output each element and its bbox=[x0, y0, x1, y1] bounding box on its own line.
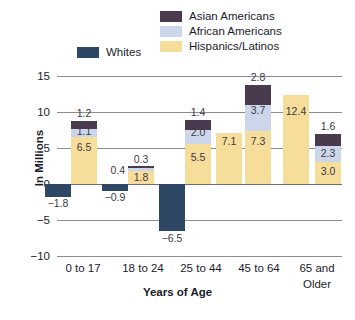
legend-item-hispanics-latinos: Hispanics/Latinos bbox=[160, 39, 282, 53]
value-label-hispanic-5a: 12.4 bbox=[278, 106, 314, 117]
value-label-hispanic-2: 1.8 bbox=[123, 172, 159, 183]
value-label-african-2: 0.4 bbox=[95, 165, 125, 176]
legend-item-asian-americans: Asian Americans bbox=[160, 9, 282, 23]
value-label-whites-3: −6.5 bbox=[154, 233, 190, 244]
x-tick-45-to-64: 45 to 64 bbox=[226, 262, 292, 274]
legend-item-whites: Whites bbox=[77, 45, 141, 59]
legend-swatch-asian-americans-icon bbox=[160, 11, 182, 22]
gridline-15 bbox=[57, 76, 342, 77]
legend-item-african-americans: African Americans bbox=[160, 24, 282, 38]
y-tick-neg10: −10 bbox=[20, 250, 50, 262]
bar-0-to-17-whites bbox=[45, 184, 71, 197]
legend-label-hispanics-latinos: Hispanics/Latinos bbox=[189, 40, 279, 52]
bar-25-to-44-whites bbox=[159, 184, 185, 231]
gridline-zero bbox=[57, 184, 342, 185]
legend-label-whites: Whites bbox=[106, 46, 141, 58]
value-label-hispanic-4b: 7.3 bbox=[240, 136, 276, 147]
legend-label-asian-americans: Asian Americans bbox=[189, 10, 275, 22]
x-axis-title: Years of Age bbox=[0, 286, 355, 298]
value-label-asian-4b: 2.8 bbox=[240, 72, 276, 83]
value-label-hispanic-5b: 3.0 bbox=[310, 166, 346, 177]
legend-swatch-african-americans-icon bbox=[160, 26, 182, 37]
plot-area: 1.2 1.1 6.5 −1.8 0.3 0.4 1.8 −0.9 1.4 2.… bbox=[57, 76, 342, 256]
value-label-whites-1: −1.8 bbox=[40, 198, 76, 209]
y-tick-neg5: −5 bbox=[20, 214, 50, 226]
value-label-african-1: 1.1 bbox=[66, 126, 102, 137]
value-label-african-5b: 2.3 bbox=[310, 148, 346, 159]
value-label-hispanic-1: 6.5 bbox=[66, 142, 102, 153]
legend-whites: Whites bbox=[77, 45, 141, 60]
segment-asian-americans bbox=[245, 85, 271, 105]
value-label-asian-5b: 1.6 bbox=[310, 121, 346, 132]
legend-swatch-hispanics-latinos-icon bbox=[160, 41, 182, 52]
bar-18-to-24-whites bbox=[102, 184, 128, 191]
segment-asian-americans bbox=[315, 134, 341, 146]
value-label-hispanic-3: 5.5 bbox=[180, 152, 216, 163]
value-label-asian-3: 1.4 bbox=[180, 107, 216, 118]
value-label-asian-2: 0.3 bbox=[123, 154, 159, 165]
value-label-asian-1: 1.2 bbox=[66, 108, 102, 119]
value-label-african-4b: 3.7 bbox=[240, 105, 276, 116]
legend-swatch-whites-icon bbox=[77, 47, 99, 58]
x-tick-25-to-44: 25 to 44 bbox=[168, 262, 234, 274]
gridline-neg5 bbox=[57, 220, 342, 221]
x-tick-18-to-24: 18 to 24 bbox=[110, 262, 176, 274]
legend-label-african-americans: African Americans bbox=[189, 25, 282, 37]
y-tick-15: 15 bbox=[20, 70, 50, 82]
value-label-whites-2: −0.9 bbox=[97, 192, 133, 203]
x-tick-0-to-17: 0 to 17 bbox=[52, 262, 114, 274]
bar-chart: Whites Asian Americans African Americans… bbox=[0, 0, 355, 320]
legend-series: Asian Americans African Americans Hispan… bbox=[160, 9, 282, 54]
y-axis-title: In Millions bbox=[33, 113, 45, 203]
x-tick-65-and-older-line1: 65 and bbox=[287, 262, 347, 274]
gridline-neg10 bbox=[57, 256, 342, 257]
